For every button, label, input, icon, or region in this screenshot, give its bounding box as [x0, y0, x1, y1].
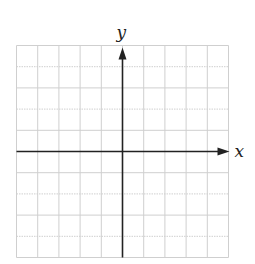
x-axis-arrow-icon: [218, 148, 230, 156]
y-axis: [119, 48, 127, 258]
y-axis-label: y: [116, 22, 127, 42]
x-axis-label: x: [235, 141, 245, 161]
coordinate-plane: x y: [0, 0, 255, 264]
y-axis-arrow-icon: [119, 48, 127, 60]
